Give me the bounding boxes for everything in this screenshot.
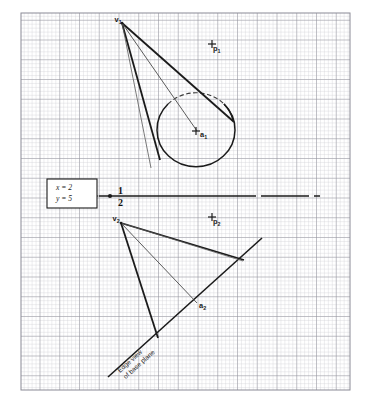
apex-point-2	[120, 222, 123, 225]
coordinate-callout-box: x = 2 y = 5	[47, 179, 97, 208]
fold-line-origin-dot	[108, 194, 112, 198]
figure-svg: v1 a1 p1 1 2	[0, 0, 369, 407]
drawing-canvas: v1 a1 p1 1 2	[0, 0, 369, 407]
coordinate-x-value: x = 2	[55, 183, 72, 192]
fold-label-top: 1	[118, 185, 123, 196]
coordinate-y-value: y = 5	[55, 194, 72, 203]
fold-label-bottom: 2	[118, 197, 123, 208]
